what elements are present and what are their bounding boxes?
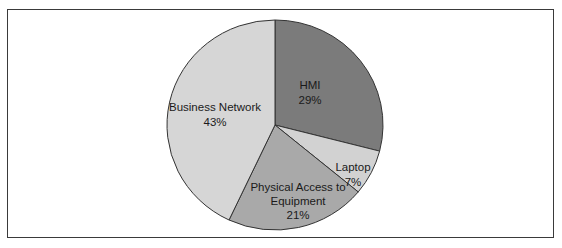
slice-value-hmi: 29%: [298, 94, 321, 106]
slice-label-physical-line1: Physical Access to: [250, 181, 345, 193]
slice-label-laptop: Laptop: [335, 161, 370, 173]
slice-value-laptop: 7%: [345, 176, 362, 188]
slice-label-business-network: Business Network: [169, 101, 261, 113]
slice-value-physical: 21%: [286, 209, 309, 221]
slice-label-hmi: HMI: [299, 79, 320, 91]
slice-value-business-network: 43%: [203, 116, 226, 128]
slice-label-physical-line2: Equipment: [271, 195, 327, 207]
pie-chart: HMI 29% Laptop 7% Physical Access to Equ…: [0, 0, 562, 248]
